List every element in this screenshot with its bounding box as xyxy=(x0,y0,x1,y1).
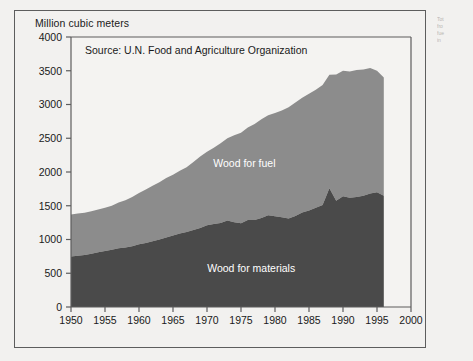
series-label-wood-for-materials: Wood for materials xyxy=(207,262,295,274)
x-tick-label: 2000 xyxy=(399,314,423,326)
y-tick-label: 1500 xyxy=(39,200,63,212)
y-tick-label: 4000 xyxy=(39,31,63,43)
source-note: Source: U.N. Food and Agriculture Organi… xyxy=(85,44,308,56)
side-note-line: fro xyxy=(437,23,473,30)
y-tick-label: 2000 xyxy=(39,166,63,178)
x-tick-label: 1995 xyxy=(365,314,389,326)
side-note-line: in xyxy=(437,37,473,44)
x-tick-label: 1965 xyxy=(161,314,185,326)
x-tick-label: 1975 xyxy=(229,314,253,326)
x-tick-label: 1955 xyxy=(93,314,117,326)
x-tick-label: 1980 xyxy=(263,314,287,326)
y-tick-label: 1000 xyxy=(39,233,63,245)
y-tick-label: 0 xyxy=(56,301,62,313)
plot-area: 0500100015002000250030003500400019501955… xyxy=(15,11,427,349)
side-note-line: Tot xyxy=(437,16,473,23)
x-tick-label: 1990 xyxy=(331,314,355,326)
stacked-area-chart: 0500100015002000250030003500400019501955… xyxy=(15,11,427,349)
y-tick-label: 2500 xyxy=(39,132,63,144)
x-tick-label: 1985 xyxy=(297,314,321,326)
side-note: Tot fro fue in xyxy=(437,16,473,44)
x-tick-label: 1960 xyxy=(127,314,151,326)
x-tick-label: 1970 xyxy=(195,314,219,326)
side-note-line: fue xyxy=(437,30,473,37)
y-tick-label: 3500 xyxy=(39,65,63,77)
y-tick-label: 500 xyxy=(44,267,62,279)
series-label-wood-for-fuel: Wood for fuel xyxy=(213,157,275,169)
chart-figure: Million cubic meters 0500100015002000250… xyxy=(14,10,426,348)
x-tick-label: 1950 xyxy=(59,314,83,326)
y-tick-label: 3000 xyxy=(39,98,63,110)
